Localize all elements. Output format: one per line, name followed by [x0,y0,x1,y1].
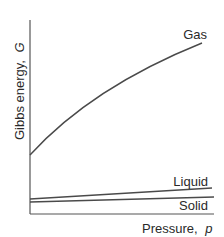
gibbs-energy-chart: Gas Liquid Solid Pressure, p Gibbs energ… [0,0,224,237]
gas-curve [30,43,202,155]
solid-label: Solid [179,198,208,213]
y-axis-label-text: Gibbs energy, [12,60,27,140]
gas-label: Gas [183,27,207,42]
y-axis-label: Gibbs energy, G [12,42,27,140]
liquid-label: Liquid [173,174,208,189]
y-axis-label-symbol: G [12,42,27,52]
x-axis-label-text: Pressure, [142,221,198,236]
x-axis-label: Pressure, p [142,221,213,236]
x-axis-label-symbol: p [204,221,212,236]
